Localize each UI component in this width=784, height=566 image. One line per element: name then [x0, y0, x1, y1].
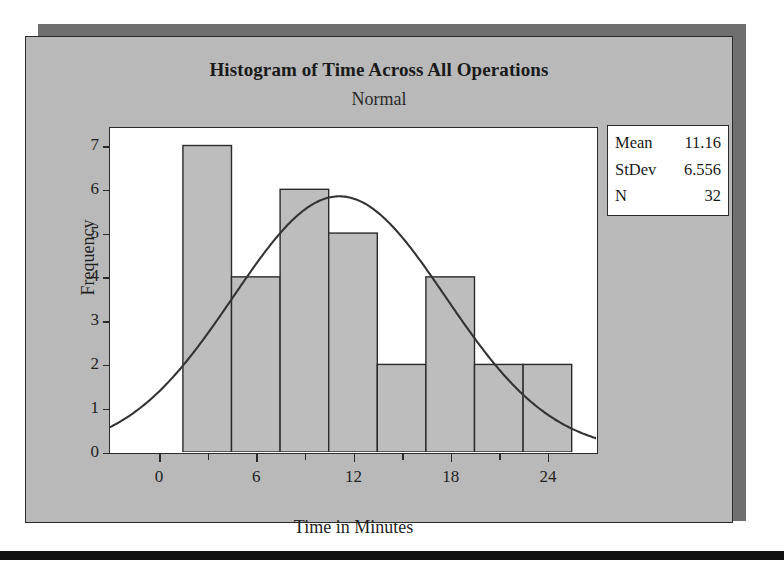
x-minor-tick-mark — [305, 454, 307, 460]
x-tick-mark — [548, 454, 550, 462]
figure-page: Histogram of Time Across All Operations … — [0, 0, 784, 566]
y-tick-label: 5 — [73, 223, 99, 243]
statistic-value: 11.16 — [684, 130, 721, 157]
chart-title: Histogram of Time Across All Operations — [26, 59, 732, 81]
histogram-bar — [232, 277, 281, 452]
x-tick-mark — [451, 454, 453, 462]
x-tick-label: 12 — [334, 467, 374, 487]
y-tick-label: 2 — [73, 354, 99, 374]
histogram-plot — [110, 128, 596, 452]
statistics-row: Mean11.16 — [615, 130, 721, 157]
y-tick-label: 4 — [73, 266, 99, 286]
y-tick-label: 0 — [73, 442, 99, 462]
x-tick-mark — [256, 454, 258, 462]
statistic-value: 6.556 — [684, 157, 721, 184]
statistics-row: N32 — [615, 183, 721, 210]
chart-panel: Histogram of Time Across All Operations … — [25, 36, 733, 523]
histogram-bar — [329, 233, 378, 452]
statistics-box: Mean11.16StDev6.556N32 — [607, 125, 729, 216]
statistic-label: N — [615, 183, 633, 210]
x-tick-label: 18 — [431, 467, 471, 487]
y-tick-label: 1 — [73, 398, 99, 418]
statistics-row: StDev6.556 — [615, 157, 721, 184]
y-tick-label: 3 — [73, 310, 99, 330]
x-tick-mark — [354, 454, 356, 462]
bottom-rule — [0, 551, 784, 560]
x-minor-tick-mark — [208, 454, 210, 460]
x-tick-mark — [159, 454, 161, 462]
statistic-label: StDev — [615, 157, 662, 184]
histogram-bar — [280, 189, 329, 452]
x-tick-label: 6 — [236, 467, 276, 487]
statistic-value: 32 — [705, 183, 722, 210]
histogram-bar — [377, 364, 426, 452]
plot-area — [109, 127, 598, 454]
x-minor-tick-mark — [402, 454, 404, 460]
y-tick-label: 7 — [73, 135, 99, 155]
histogram-bar — [523, 364, 572, 452]
y-tick-label: 6 — [73, 179, 99, 199]
histogram-bar — [183, 146, 232, 452]
x-axis-label: Time in Minutes — [109, 517, 598, 538]
statistic-label: Mean — [615, 130, 659, 157]
histogram-bar — [475, 364, 524, 452]
x-tick-label: 24 — [528, 467, 568, 487]
x-tick-label: 0 — [139, 467, 179, 487]
chart-subtitle: Normal — [26, 89, 732, 110]
x-minor-tick-mark — [499, 454, 501, 460]
